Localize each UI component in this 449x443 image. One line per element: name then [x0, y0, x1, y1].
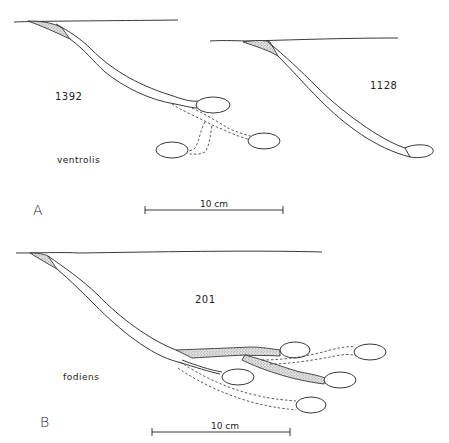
panel-letter-a: A	[33, 202, 43, 218]
burrow-plug	[243, 41, 278, 57]
chamber	[248, 133, 280, 149]
burrow-plug	[30, 253, 57, 269]
dashed-branch	[188, 122, 205, 151]
burrow-diagram: 1392 ventrolis 1128 A 10 cm	[0, 0, 449, 443]
ground-surface-line	[210, 38, 398, 41]
scale-bar-a: 10 cm	[145, 199, 283, 214]
chamber	[156, 142, 188, 158]
nest-chamber	[405, 145, 433, 158]
dashed-branch	[270, 355, 356, 365]
tunnel-upper-wall	[268, 42, 428, 148]
panel-a: 1392 ventrolis 1128 A 10 cm	[14, 20, 433, 218]
chamber	[324, 372, 356, 388]
tunnel-lower-wall	[57, 269, 220, 374]
lower-tunnel	[182, 360, 222, 372]
scale-bar-b: 10 cm	[152, 421, 290, 436]
panel-b: 201 fodiens B 10 cm	[16, 251, 386, 436]
tunnel-upper-wall	[48, 256, 176, 350]
burrow-201: 201 fodiens	[16, 251, 386, 413]
tunnel-upper-wall	[56, 24, 198, 101]
chamber	[222, 369, 254, 385]
scale-bar-label: 10 cm	[200, 199, 228, 209]
burrow-plug	[28, 21, 70, 39]
chamber	[296, 397, 326, 413]
backfilled-tunnel	[242, 355, 325, 384]
chamber	[280, 342, 310, 358]
chamber	[354, 344, 386, 360]
backfilled-tunnel	[176, 347, 280, 358]
ground-surface-line	[16, 251, 322, 253]
panel-letter-b: B	[40, 414, 49, 430]
burrow-id-1392: 1392	[55, 91, 82, 102]
burrow-id-201: 201	[195, 294, 216, 305]
species-label: ventrolis	[57, 155, 100, 165]
burrow-1128: 1128	[210, 38, 433, 158]
nest-chamber	[196, 97, 230, 113]
scale-bar-label: 10 cm	[211, 421, 239, 431]
species-label: fodiens	[63, 372, 99, 382]
burrow-1392: 1392 ventrolis	[14, 20, 280, 165]
burrow-id-1128: 1128	[370, 80, 397, 91]
dashed-branch	[192, 108, 256, 138]
